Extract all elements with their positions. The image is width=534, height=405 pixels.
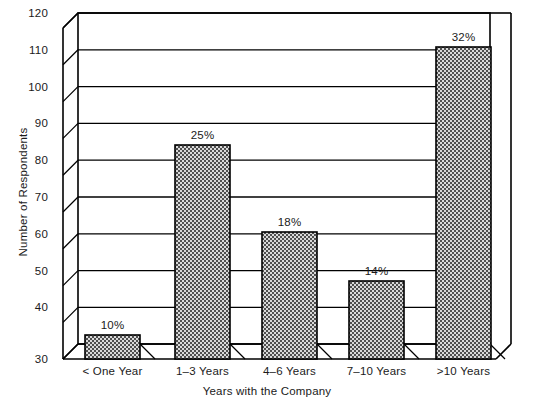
bar-label-greater-than-10-years: 32% (436, 32, 491, 44)
bar-label-7-10-years: 14% (349, 266, 404, 278)
bar-label-less-than-one-year: 10% (85, 320, 140, 332)
chart-canvas (0, 0, 534, 405)
bar-greater-than-10-years[interactable] (436, 47, 491, 359)
y-tick-label-40: 40 (18, 302, 48, 314)
y-tick-label-30: 30 (18, 354, 48, 366)
bar-7-10-years[interactable] (349, 281, 404, 359)
bar-4-6-years[interactable] (262, 232, 317, 359)
y-tick-label-100: 100 (18, 82, 48, 94)
y-tick-label-120: 120 (18, 8, 48, 20)
y-axis-title: Number of Respondents (17, 107, 29, 277)
x-axis-title: Years with the Company (0, 385, 534, 397)
bar-label-4-6-years: 18% (262, 217, 317, 229)
bar-label-1-3-years: 25% (175, 130, 230, 142)
x-tick-label-greater-than-10-years: >10 Years (406, 366, 521, 378)
bar-less-than-one-year[interactable] (85, 335, 140, 359)
y-tick-label-110: 110 (18, 45, 48, 57)
bar-1-3-years[interactable] (175, 145, 230, 359)
bar-series (85, 47, 491, 359)
bar-chart: 120 110 100 90 80 70 60 50 40 30 10% 25%… (0, 0, 534, 405)
